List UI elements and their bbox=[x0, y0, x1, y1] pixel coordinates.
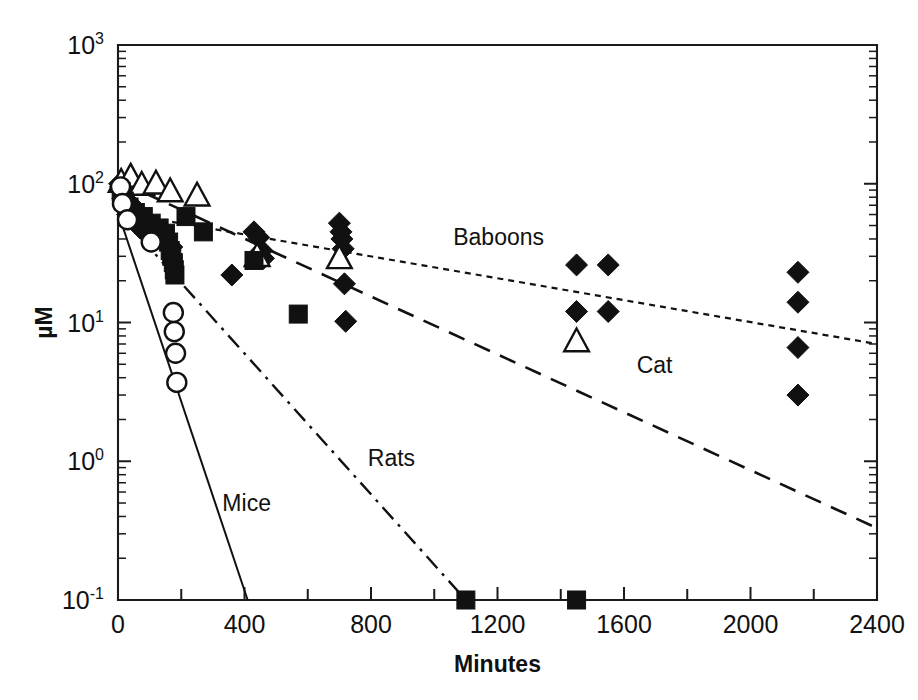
x-tick-label: 800 bbox=[350, 610, 392, 638]
point-diamond bbox=[787, 337, 809, 359]
point-square bbox=[166, 266, 184, 284]
point-triangle bbox=[564, 328, 589, 351]
x-tick-label: 2400 bbox=[849, 610, 905, 638]
point-square bbox=[457, 591, 475, 609]
point-diamond bbox=[333, 273, 355, 295]
point-diamond bbox=[787, 261, 809, 283]
annotation-baboons: Baboons bbox=[453, 224, 544, 250]
point-diamond bbox=[787, 384, 809, 406]
annotation-cat: Cat bbox=[637, 352, 673, 378]
point-diamond bbox=[566, 254, 588, 276]
point-circle bbox=[118, 210, 137, 229]
point-circle bbox=[167, 373, 186, 392]
point-square bbox=[289, 305, 307, 323]
annotation-rats: Rats bbox=[368, 445, 415, 471]
point-square bbox=[245, 251, 263, 269]
point-circle bbox=[164, 303, 183, 322]
point-diamond bbox=[597, 301, 619, 323]
annotation-mice: Mice bbox=[222, 490, 271, 516]
y-tick-label: 10-1 bbox=[62, 585, 104, 614]
chart-figure: 10310210110010-1 04008001200160020002400… bbox=[0, 0, 918, 700]
y-tick-label: 101 bbox=[67, 308, 104, 337]
point-diamond bbox=[335, 310, 357, 332]
point-diamond bbox=[597, 254, 619, 276]
point-square bbox=[194, 223, 212, 241]
plot-canvas: 10310210110010-1 04008001200160020002400… bbox=[0, 0, 918, 700]
point-diamond bbox=[787, 291, 809, 313]
x-tick-label: 1600 bbox=[596, 610, 652, 638]
x-axis-tick-labels: 04008001200160020002400 bbox=[111, 610, 905, 638]
x-tick-label: 2000 bbox=[723, 610, 779, 638]
point-square bbox=[177, 208, 195, 226]
series-baboons bbox=[109, 173, 809, 406]
point-circle bbox=[166, 344, 185, 363]
axes bbox=[118, 45, 877, 600]
point-diamond bbox=[566, 301, 588, 323]
x-tick-label: 0 bbox=[111, 610, 125, 638]
y-tick-label: 100 bbox=[67, 446, 104, 475]
axis-ticks bbox=[118, 45, 877, 600]
point-square bbox=[568, 591, 586, 609]
x-tick-label: 1200 bbox=[470, 610, 526, 638]
y-axis-title: µM bbox=[31, 306, 57, 338]
x-axis-title: Minutes bbox=[454, 651, 541, 677]
point-diamond bbox=[221, 264, 243, 286]
y-tick-label: 103 bbox=[67, 30, 104, 59]
point-circle bbox=[165, 322, 184, 341]
point-triangle bbox=[185, 183, 210, 206]
point-circle bbox=[142, 233, 161, 252]
y-axis-tick-labels: 10310210110010-1 bbox=[62, 30, 104, 614]
y-tick-label: 102 bbox=[67, 169, 104, 198]
x-tick-label: 400 bbox=[224, 610, 266, 638]
